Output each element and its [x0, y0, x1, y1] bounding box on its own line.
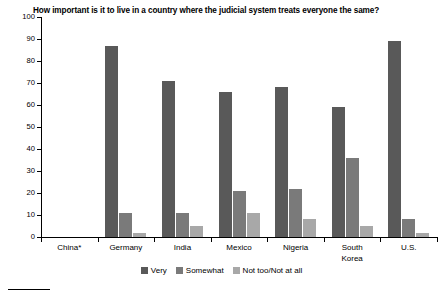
- y-axis-tick: 0: [0, 237, 41, 238]
- x-axis-category-label: Nigeria: [267, 243, 324, 254]
- chart-title: How important is it to live in a country…: [33, 6, 438, 16]
- x-axis-tick-mark: [267, 237, 268, 242]
- x-axis-tick-mark: [380, 237, 381, 242]
- x-axis-category-label: India: [154, 243, 211, 254]
- y-axis-tick: 70: [0, 83, 41, 84]
- chart-legend: VerySomewhatNot too/Not at all: [0, 266, 443, 275]
- bar: [332, 107, 345, 237]
- y-axis-tick-label: 80: [27, 56, 35, 66]
- bar: [105, 46, 118, 237]
- footnote-rule: [8, 289, 50, 290]
- y-axis-tick-label: 60: [27, 100, 35, 110]
- bar-chart: How important is it to live in a country…: [0, 0, 443, 297]
- y-axis-tick: 20: [0, 193, 41, 194]
- bar: [176, 213, 189, 237]
- y-axis-tick-label: 30: [27, 166, 35, 176]
- bar: [289, 189, 302, 237]
- y-axis-tick: 80: [0, 61, 41, 62]
- x-axis-category-label: U.S.: [380, 243, 437, 254]
- y-axis-tick: 50: [0, 127, 41, 128]
- legend-label: Not too/Not at all: [243, 266, 303, 275]
- bar: [275, 87, 288, 237]
- legend-swatch: [176, 267, 183, 274]
- legend-label: Very: [151, 266, 167, 275]
- bar: [416, 233, 429, 237]
- bar: [233, 191, 246, 237]
- x-axis-category-label: SouthKorea: [324, 243, 381, 264]
- y-axis-tick: 100: [0, 17, 41, 18]
- bar: [247, 213, 260, 237]
- x-axis-line: [41, 237, 437, 238]
- x-axis-tick-mark: [41, 237, 42, 242]
- bar: [133, 233, 146, 237]
- y-axis-tick-label: 50: [27, 122, 35, 132]
- plot-area: [41, 17, 437, 237]
- x-axis-tick-mark: [324, 237, 325, 242]
- x-axis-tick-mark: [211, 237, 212, 242]
- y-axis-tick-label: 40: [27, 144, 35, 154]
- y-axis-tick: 30: [0, 171, 41, 172]
- legend-swatch: [233, 267, 240, 274]
- x-axis-tick-mark: [437, 237, 438, 242]
- y-axis-tick-label: 10: [27, 210, 35, 220]
- bar: [303, 219, 316, 237]
- legend-item: Somewhat: [176, 266, 224, 275]
- y-axis-tick: 10: [0, 215, 41, 216]
- bar: [402, 219, 415, 237]
- x-axis-category-label: China*: [41, 243, 98, 254]
- x-axis-tick-mark: [154, 237, 155, 242]
- bar: [190, 226, 203, 237]
- y-axis-tick: 90: [0, 39, 41, 40]
- bar: [388, 41, 401, 237]
- x-axis-category-label: Mexico: [211, 243, 268, 254]
- y-axis-tick-label: 0: [31, 232, 35, 242]
- y-axis-tick-label: 90: [27, 34, 35, 44]
- bar: [360, 226, 373, 237]
- bar: [219, 92, 232, 237]
- legend-item: Very: [141, 266, 167, 275]
- x-axis-tick-mark: [98, 237, 99, 242]
- bar: [119, 213, 132, 237]
- y-axis-tick-label: 100: [22, 12, 35, 22]
- legend-item: Not too/Not at all: [233, 266, 303, 275]
- y-axis-tick: 60: [0, 105, 41, 106]
- x-axis-category-label: Germany: [98, 243, 155, 254]
- legend-label: Somewhat: [186, 266, 224, 275]
- bar: [346, 158, 359, 237]
- y-axis-tick-label: 20: [27, 188, 35, 198]
- legend-swatch: [141, 267, 148, 274]
- y-axis-tick: 40: [0, 149, 41, 150]
- y-axis-tick-label: 70: [27, 78, 35, 88]
- bar: [162, 81, 175, 237]
